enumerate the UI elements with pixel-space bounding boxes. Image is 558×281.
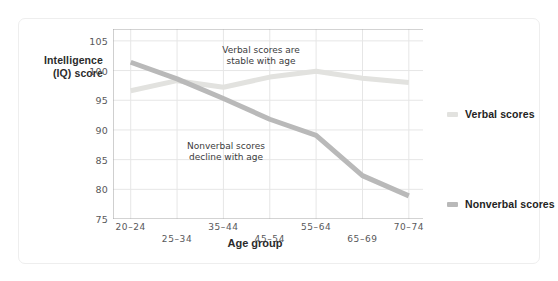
x-tick-label: 20–24 (116, 222, 146, 232)
x-tick-label: 70–74 (394, 222, 424, 232)
x-axis-title: Age group (105, 237, 405, 249)
verbal-annotation: Verbal scores are stable with age (201, 45, 321, 67)
x-tick-label: 55–64 (301, 222, 331, 232)
chart-card: Intelligence (IQ) score 7580859095100105… (18, 18, 540, 264)
y-tick-label: 90 (96, 124, 109, 135)
nonverbal-annotation: Nonverbal scores decline with age (167, 141, 285, 163)
legend-swatch-verbal (447, 112, 458, 117)
x-tick-label: 35–44 (208, 222, 238, 232)
y-tick-label: 80 (96, 184, 109, 195)
legend-label-nonverbal: Nonverbal scores (465, 198, 555, 210)
y-tick-label: 95 (96, 95, 109, 106)
legend-label-verbal: Verbal scores (465, 108, 535, 120)
y-tick-label: 85 (96, 154, 109, 165)
legend-item-verbal-scores: Verbal scores (447, 108, 535, 120)
y-tick-label: 105 (89, 35, 108, 46)
legend-swatch-nonverbal (447, 202, 458, 207)
y-tick-label: 75 (96, 214, 109, 225)
plot-area: 7580859095100105 20–2425–3435–4445–5455–… (113, 29, 423, 219)
y-tick-label: 100 (89, 65, 108, 76)
legend-item-nonverbal-scores: Nonverbal scores (447, 198, 555, 210)
